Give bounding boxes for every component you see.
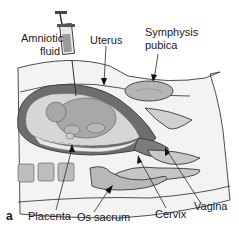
label-amniotic-fluid-2: fluid bbox=[40, 45, 60, 57]
label-amniotic-fluid-1: Amniotic bbox=[21, 32, 64, 44]
label-uterus: Uterus bbox=[90, 34, 123, 46]
label-vagina: Vagina bbox=[194, 200, 228, 212]
panel-label: a bbox=[6, 209, 13, 223]
symphysis-pubica bbox=[125, 81, 173, 101]
label-placenta: Placenta bbox=[28, 210, 72, 222]
label-os-sacrum: Os sacrum bbox=[77, 211, 130, 223]
label-symphysis-1: Symphysis bbox=[145, 26, 199, 38]
label-symphysis-2: pubica bbox=[145, 39, 178, 51]
amniocentesis-diagram: Amniotic fluid Uterus Symphysis pubica a… bbox=[0, 0, 239, 232]
label-cervix: Cervix bbox=[155, 208, 187, 220]
